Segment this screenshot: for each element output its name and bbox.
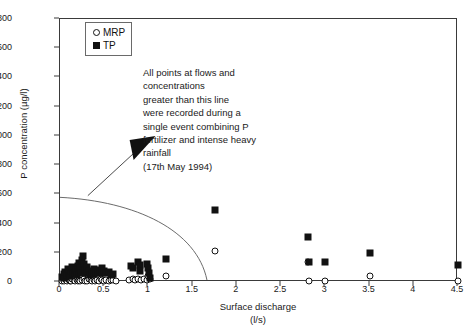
data-point-tp — [147, 274, 154, 281]
data-point-mrp — [81, 277, 88, 284]
y-tick-label: 1200 — [0, 101, 12, 110]
x-tick-mark — [235, 281, 236, 286]
data-point-tp — [127, 262, 134, 269]
y-tick-label: 1000 — [0, 130, 12, 139]
circle-outline-icon-glyph — [93, 29, 100, 36]
data-point-mrp — [163, 273, 170, 280]
data-point-tp — [146, 270, 153, 277]
x-tick-label: 4 — [410, 285, 415, 294]
data-point-mrp — [110, 276, 117, 283]
data-point-tp — [79, 253, 86, 260]
data-point-mrp — [94, 276, 101, 283]
y-tick-label: 600 — [0, 189, 12, 198]
legend-item-tp[interactable]: TP — [90, 39, 125, 52]
annotation-event-note: All points at flows andconcentrationsgre… — [143, 66, 328, 173]
data-point-tp — [72, 269, 79, 276]
data-point-tp — [211, 207, 218, 214]
square-filled-icon-glyph — [93, 42, 100, 49]
x-axis-title-units: (l/s) — [59, 313, 457, 326]
x-tick-mark — [147, 281, 148, 286]
data-point-tp — [136, 262, 143, 269]
data-point-tp — [108, 271, 115, 278]
square-filled-icon — [90, 42, 102, 49]
data-point-tp — [137, 268, 144, 275]
data-point-mrp — [304, 258, 311, 265]
annotation-line: greater than this line — [143, 93, 328, 106]
data-point-tp — [134, 259, 141, 266]
data-point-tp — [78, 270, 85, 277]
data-point-tp — [145, 265, 152, 272]
data-point-tp — [72, 266, 79, 273]
data-point-mrp — [87, 277, 94, 284]
data-point-tp — [86, 268, 93, 275]
data-point-mrp — [79, 277, 86, 284]
data-point-tp — [105, 268, 112, 275]
legend-label: TP — [102, 40, 116, 51]
annotation-arrow-shaft — [88, 146, 142, 196]
data-point-mrp — [306, 277, 313, 284]
data-point-tp — [64, 265, 71, 272]
annotation-line: All points at flows and — [143, 66, 328, 79]
data-point-tp — [143, 260, 150, 267]
y-tick-label: 1800 — [0, 14, 12, 23]
x-axis-title-text: Surface discharge — [59, 300, 457, 313]
data-point-tp — [81, 267, 88, 274]
data-point-tp — [322, 258, 329, 265]
data-point-tp — [91, 270, 98, 277]
data-point-tp — [73, 271, 80, 278]
legend-item-mrp[interactable]: MRP — [90, 26, 125, 39]
x-tick-label: 0.5 — [97, 285, 110, 294]
x-tick-label: 3 — [322, 285, 327, 294]
x-tick-label: 1.5 — [185, 285, 198, 294]
data-point-mrp — [145, 273, 152, 280]
data-point-mrp — [90, 276, 97, 283]
scatter-chart-figure: P concentration (µg/l) 02004006008001000… — [0, 0, 476, 336]
x-tick-label: 1 — [145, 285, 150, 294]
data-point-tp — [77, 265, 84, 272]
data-point-tp — [90, 265, 97, 272]
x-tick-mark — [103, 281, 104, 286]
data-point-mrp — [211, 247, 218, 254]
data-point-tp — [58, 273, 65, 280]
data-point-tp — [110, 270, 117, 277]
y-axis-title: P concentration (µg/l) — [18, 49, 29, 219]
data-point-tp — [70, 270, 77, 277]
annotation-line: single event combining P — [143, 120, 328, 133]
data-point-mrp — [77, 277, 84, 284]
y-tick-label: 200 — [0, 247, 12, 256]
data-point-tp — [95, 270, 102, 277]
data-point-tp — [76, 260, 83, 267]
data-point-tp — [101, 268, 108, 275]
data-point-tp — [163, 256, 170, 263]
x-tick-label: 2.5 — [274, 285, 287, 294]
data-point-mrp — [88, 277, 95, 284]
data-point-tp — [75, 268, 82, 275]
data-point-tp — [65, 270, 72, 277]
x-tick-label: 0 — [56, 285, 61, 294]
data-point-mrp — [108, 277, 115, 284]
annotation-line: were recorded during a — [143, 106, 328, 119]
x-tick-mark — [457, 281, 458, 286]
data-point-mrp — [132, 277, 139, 284]
x-tick-mark — [368, 281, 369, 286]
data-point-tp — [366, 249, 373, 256]
x-tick-label: 2 — [233, 285, 238, 294]
y-tick-label: 1600 — [0, 43, 12, 52]
data-point-tp — [66, 273, 73, 280]
data-point-mrp — [69, 276, 76, 283]
data-point-tp — [93, 268, 100, 275]
data-point-mrp — [65, 276, 72, 283]
data-point-mrp — [86, 276, 93, 283]
data-point-tp — [68, 268, 75, 275]
data-point-mrp — [74, 277, 81, 284]
data-point-mrp — [72, 278, 79, 285]
legend-label: MRP — [102, 27, 125, 38]
circle-outline-icon — [90, 29, 102, 36]
data-point-tp — [61, 274, 68, 281]
data-point-tp — [62, 268, 69, 275]
data-point-tp — [102, 270, 109, 277]
data-point-mrp — [73, 276, 80, 283]
data-point-mrp — [61, 277, 68, 284]
data-point-tp — [98, 265, 105, 272]
x-tick-mark — [59, 281, 60, 286]
